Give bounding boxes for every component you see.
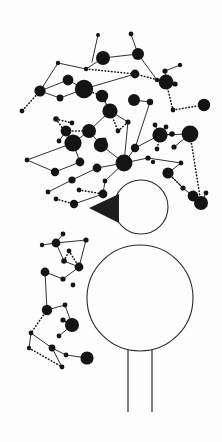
network-node [75, 80, 93, 98]
network-node [41, 268, 50, 277]
network-node [61, 258, 67, 264]
network-node [96, 51, 110, 65]
network-node [153, 123, 158, 128]
network-node [64, 134, 81, 151]
network-edge-solid [58, 63, 86, 69]
network-node [131, 70, 140, 79]
network-edge-solid [48, 180, 72, 192]
network-node [63, 75, 74, 86]
network-node [116, 129, 121, 134]
network-node [102, 103, 117, 118]
network-node [57, 95, 64, 102]
network-edge-solid [56, 240, 86, 243]
network-edge-solid [31, 333, 52, 348]
network-node [34, 85, 45, 96]
network-node [99, 190, 108, 199]
body-circle [87, 245, 193, 351]
network-node [60, 317, 65, 322]
network-node [96, 90, 108, 102]
network-node [169, 131, 175, 137]
network-node [71, 283, 76, 288]
network-node [63, 303, 68, 308]
network-node [82, 124, 96, 138]
figure-layer [87, 180, 193, 412]
network-node [128, 94, 140, 106]
network-node [57, 334, 62, 339]
network-node [132, 48, 144, 60]
network-edge-solid [27, 160, 55, 172]
node-network-figure-svg [0, 0, 222, 442]
network-node [159, 75, 174, 90]
head-circle [114, 180, 168, 234]
network-node [194, 196, 208, 210]
network-node [204, 191, 209, 196]
network-node [49, 345, 56, 352]
network-node [52, 239, 61, 248]
network-node [60, 276, 65, 281]
network-node [164, 125, 169, 130]
network-node [131, 144, 139, 152]
network-node [84, 67, 88, 71]
beak-triangle [89, 194, 119, 223]
network-node [180, 185, 185, 190]
network-node [57, 139, 62, 144]
network-node [172, 81, 177, 86]
network-node [178, 63, 182, 67]
network-node [151, 160, 155, 164]
network-node [198, 99, 210, 111]
network-node [179, 161, 184, 166]
network-node [56, 61, 60, 65]
network-node [61, 126, 72, 137]
network-node [25, 158, 30, 163]
network-node [182, 126, 199, 143]
network-node [93, 164, 102, 173]
network-node [145, 155, 150, 160]
network-node [162, 167, 173, 178]
network-node [54, 197, 59, 202]
network-node [76, 158, 85, 167]
network-node [70, 200, 78, 208]
network-node [64, 353, 69, 358]
network-node [80, 351, 93, 364]
network-node [155, 78, 159, 82]
network-node [147, 99, 153, 105]
network-node [96, 33, 100, 37]
network-node [20, 109, 25, 114]
network-node [46, 190, 51, 195]
network-node [40, 243, 44, 247]
network-node [171, 108, 176, 113]
network-node [162, 68, 167, 73]
network-node [125, 119, 130, 124]
network-node [29, 331, 34, 336]
network-node [42, 305, 52, 315]
network-node [70, 121, 75, 126]
network-node [61, 232, 66, 237]
network-node [116, 155, 133, 172]
network-node [68, 176, 75, 183]
artwork-canvas [0, 0, 222, 442]
network-node [53, 116, 59, 122]
network-node [103, 179, 108, 184]
network-node [77, 188, 82, 193]
network-node [94, 138, 108, 152]
network-node [51, 168, 59, 176]
network-node [129, 32, 134, 37]
network-node [67, 249, 72, 254]
network-node [155, 147, 160, 152]
network-node [83, 237, 88, 242]
network-node [60, 365, 65, 370]
network-node [152, 127, 167, 142]
network-edge-dotted [86, 69, 135, 74]
leg-lines [128, 350, 152, 412]
network-node [65, 318, 79, 332]
network-edge-solid [74, 194, 103, 204]
network-node [171, 144, 176, 149]
network-edge-solid [45, 272, 47, 310]
network-node [27, 346, 31, 350]
network-node [75, 263, 84, 272]
